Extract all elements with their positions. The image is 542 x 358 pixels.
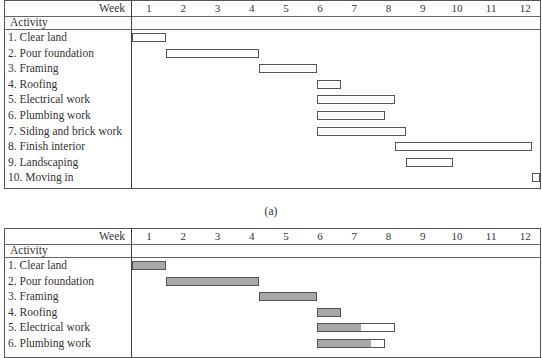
- progress-fill: [318, 340, 371, 347]
- task-bar: [317, 127, 406, 136]
- week-tick: 11: [481, 1, 501, 16]
- week-tick: 8: [379, 1, 399, 16]
- activity-name: 6. Plumbing work: [8, 336, 91, 351]
- gantt-chart-a: Week123456789101112Activity1. Clear land…: [4, 0, 541, 189]
- week-tick: 6: [310, 229, 330, 244]
- gantt-chart-b: Week123456789101112Activity1. Clear land…: [4, 228, 541, 358]
- activity-row: Activity: [5, 16, 540, 30]
- week-tick: 6: [310, 1, 330, 16]
- week-tick: 12: [515, 1, 535, 16]
- activity-name: 9. Landscaping: [8, 155, 78, 170]
- week-tick: 7: [344, 229, 364, 244]
- task-bar: [166, 49, 258, 58]
- task-bar: [317, 339, 385, 348]
- activity-name: 7. Siding and brick work: [8, 124, 122, 139]
- activity-name: 3. Framing: [8, 61, 58, 76]
- task-bar: [259, 292, 317, 301]
- task-bar: [532, 173, 540, 182]
- activity-label: Activity: [10, 244, 48, 257]
- activity-name: 1. Clear land: [8, 258, 67, 273]
- week-tick: 5: [276, 1, 296, 16]
- task-bar: [317, 308, 341, 317]
- task-bar: [166, 277, 258, 286]
- header-row: Week123456789101112: [5, 1, 540, 17]
- task-bar: [317, 95, 396, 104]
- activity-name: 2. Pour foundation: [8, 46, 94, 61]
- week-tick: 3: [208, 1, 228, 16]
- activity-name: 10. Moving in: [8, 170, 74, 185]
- activity-name: 5. Electrical work: [8, 320, 90, 335]
- activity-name: 5. Electrical work: [8, 92, 90, 107]
- week-tick: 2: [173, 1, 193, 16]
- activity-name: 1. Clear land: [8, 30, 67, 45]
- caption-a: (a): [0, 205, 542, 217]
- task-bar: [132, 33, 166, 42]
- activity-name: 6. Plumbing work: [8, 108, 91, 123]
- column-divider: [131, 229, 132, 357]
- week-tick: 1: [139, 229, 159, 244]
- week-tick: 3: [208, 229, 228, 244]
- week-tick: 12: [515, 229, 535, 244]
- task-bar: [317, 80, 341, 89]
- task-bar: [259, 64, 317, 73]
- activity-name: 4. Roofing: [8, 305, 57, 320]
- activity-name: 3. Framing: [8, 289, 58, 304]
- task-bar: [317, 323, 396, 332]
- activity-name: 4. Roofing: [8, 77, 57, 92]
- task-bar: [132, 261, 166, 270]
- week-tick: 9: [413, 229, 433, 244]
- week-tick: 9: [413, 1, 433, 16]
- week-tick: 11: [481, 229, 501, 244]
- activity-row: Activity: [5, 244, 540, 258]
- week-tick: 1: [139, 1, 159, 16]
- progress-fill: [133, 262, 165, 269]
- activity-name: 8. Finish interior: [8, 139, 85, 154]
- column-divider: [131, 1, 132, 188]
- progress-fill: [318, 324, 361, 331]
- week-label: Week: [5, 229, 125, 244]
- week-tick: 10: [447, 229, 467, 244]
- progress-fill: [318, 309, 340, 316]
- activity-name: 2. Pour foundation: [8, 274, 94, 289]
- week-tick: 8: [379, 229, 399, 244]
- progress-fill: [260, 293, 316, 300]
- task-bar: [406, 158, 454, 167]
- week-tick: 5: [276, 229, 296, 244]
- week-tick: 2: [173, 229, 193, 244]
- progress-fill: [167, 278, 257, 285]
- week-label: Week: [5, 1, 125, 16]
- week-tick: 4: [242, 229, 262, 244]
- week-tick: 10: [447, 1, 467, 16]
- task-bar: [395, 142, 532, 151]
- task-bar: [317, 111, 385, 120]
- activity-label: Activity: [10, 16, 48, 29]
- week-tick: 7: [344, 1, 364, 16]
- week-tick: 4: [242, 1, 262, 16]
- header-row: Week123456789101112: [5, 229, 540, 245]
